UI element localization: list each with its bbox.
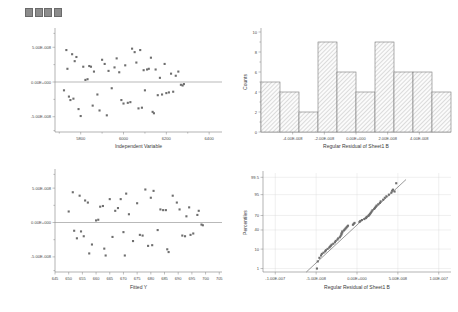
data-point (101, 59, 103, 61)
data-point (394, 190, 396, 192)
data-point (134, 51, 136, 53)
data-point (128, 213, 130, 215)
data-point (83, 235, 85, 237)
data-point (127, 102, 129, 104)
data-point (395, 182, 397, 184)
data-point (161, 93, 163, 95)
svg-text:695: 695 (189, 276, 196, 281)
histogram-bar (375, 42, 394, 132)
data-point (183, 83, 185, 85)
data-point (79, 195, 81, 197)
data-point (181, 235, 183, 237)
data-point (122, 102, 124, 104)
svg-text:1: 1 (257, 266, 260, 271)
data-point (116, 57, 118, 59)
svg-text:6400: 6400 (205, 136, 215, 141)
svg-text:-2.00E-008: -2.00E-008 (314, 136, 335, 141)
data-point (122, 231, 124, 233)
svg-text:0.00E+000: 0.00E+000 (346, 136, 366, 141)
svg-text:95: 95 (254, 192, 259, 197)
data-point (157, 229, 159, 231)
data-point (143, 69, 145, 71)
data-point (168, 91, 170, 93)
svg-text:-5.00E-008: -5.00E-008 (31, 254, 52, 259)
svg-text:2.00E-008: 2.00E-008 (378, 136, 397, 141)
svg-text:5.00E-008: 5.00E-008 (32, 45, 52, 50)
histogram-bar (356, 92, 375, 132)
data-point (316, 267, 318, 269)
svg-text:0.00E+000: 0.00E+000 (31, 220, 52, 225)
data-point (166, 248, 168, 250)
y-axis-title: Percentiles (242, 210, 248, 235)
data-point (102, 205, 104, 207)
data-point (165, 209, 167, 211)
data-point (192, 232, 194, 234)
svg-text:685: 685 (161, 276, 168, 281)
data-point (84, 199, 86, 201)
data-point (164, 63, 166, 65)
chart-residual-histogram: 0246810-4.00E-008-2.00E-0080.00E+0002.00… (229, 14, 458, 159)
data-point (113, 66, 115, 68)
svg-text:4.00E-008: 4.00E-008 (410, 136, 429, 141)
data-point (65, 49, 67, 51)
data-point (104, 63, 106, 65)
svg-text:690: 690 (175, 276, 182, 281)
svg-text:2: 2 (255, 110, 258, 115)
data-point (172, 91, 174, 93)
data-point (87, 202, 89, 204)
chart-residual-vs-independent: 5.00E-0080.00E+000-5.00E-008580060006200… (0, 14, 229, 159)
data-point (117, 207, 119, 209)
data-point (71, 53, 73, 55)
data-point (159, 77, 161, 79)
data-point (66, 68, 68, 70)
data-point (69, 99, 71, 101)
data-point (109, 198, 111, 200)
data-point (120, 99, 122, 101)
chart-residual-vs-fitted: 5.00E-0080.00E+000-5.00E-008645650655660… (0, 159, 229, 312)
data-point (120, 198, 122, 200)
histogram-bar (413, 72, 432, 132)
svg-text:70: 70 (254, 213, 259, 218)
data-point (380, 200, 382, 202)
data-point (198, 210, 200, 212)
data-point (136, 202, 138, 204)
histogram-bar (280, 92, 299, 132)
data-point (388, 194, 390, 196)
svg-text:5.00E-008: 5.00E-008 (389, 276, 408, 281)
data-point (137, 107, 139, 109)
data-point (202, 224, 204, 226)
histogram-bar (432, 92, 451, 132)
svg-text:645: 645 (52, 276, 59, 281)
data-point (139, 234, 141, 236)
data-point (111, 87, 113, 89)
data-point (125, 193, 127, 195)
data-point (90, 66, 92, 68)
data-point (124, 254, 126, 256)
histogram-bar (261, 82, 280, 132)
histogram-bar (299, 112, 318, 132)
histogram-bar (318, 42, 337, 132)
svg-text:-5.00E-008: -5.00E-008 (306, 276, 327, 281)
svg-text:675: 675 (134, 276, 141, 281)
data-point (196, 214, 198, 216)
svg-text:4: 4 (255, 90, 258, 95)
svg-text:0.00E+000: 0.00E+000 (347, 276, 367, 281)
panel-residual-vs-fitted: 5.00E-0080.00E+000-5.00E-008645650655660… (0, 159, 229, 312)
data-point (98, 109, 100, 111)
svg-text:665: 665 (106, 276, 113, 281)
data-point (189, 234, 191, 236)
plot-page: 5.00E-0080.00E+000-5.00E-008580060006200… (0, 0, 458, 312)
data-point (124, 64, 126, 66)
data-point (347, 225, 349, 227)
data-point (155, 68, 157, 70)
data-point (73, 230, 75, 232)
data-point (150, 57, 152, 59)
data-point (132, 240, 134, 242)
data-point (353, 222, 355, 224)
data-point (99, 206, 101, 208)
svg-text:660: 660 (93, 276, 100, 281)
x-axis-title: Independent Variable (115, 143, 162, 149)
svg-text:10: 10 (254, 247, 259, 252)
data-point (131, 48, 133, 50)
data-point (318, 257, 320, 259)
